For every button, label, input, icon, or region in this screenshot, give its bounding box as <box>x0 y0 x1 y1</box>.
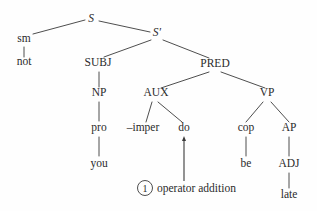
tree-node-be: be <box>241 157 252 169</box>
tree-node-cop: cop <box>238 121 255 134</box>
tree-edge-sbar-pred <box>163 40 209 58</box>
tree-node-ap: AP <box>282 121 297 133</box>
tree-node-do: do <box>178 121 190 133</box>
annotation-arrow-head <box>182 136 186 141</box>
tree-edge-s-sm <box>33 20 85 34</box>
tree-node-you: you <box>90 157 108 170</box>
operator-addition-annotation: 1operator addition <box>138 136 237 196</box>
tree-edge-pred-vp <box>221 72 265 88</box>
tree-node-aux: AUX <box>144 86 170 98</box>
tree-node-pred: PRED <box>200 57 229 69</box>
syntax-tree-diagram: SsmnotS′SUBJPREDNPAUXVPpro–imperdocopAPy… <box>0 0 317 211</box>
tree-node-np: NP <box>92 86 107 98</box>
tree-node-sm: sm <box>17 32 30 44</box>
annotation-number: 1 <box>143 183 148 194</box>
tree-nodes: SsmnotS′SUBJPREDNPAUXVPpro–imperdocopAPy… <box>17 12 300 200</box>
tree-node-not: not <box>17 55 33 67</box>
tree-node-s: S <box>88 12 94 24</box>
tree-edge-aux-imper <box>146 102 152 122</box>
tree-node-subj: SUBJ <box>85 56 112 68</box>
tree-node-sbar: S′ <box>153 26 162 38</box>
annotation-label: operator addition <box>157 182 236 195</box>
tree-canvas: SsmnotS′SUBJPREDNPAUXVPpro–imperdocopAPy… <box>0 0 317 211</box>
tree-edge-vp-ap <box>271 102 289 122</box>
tree-node-late: late <box>281 188 298 200</box>
tree-node-pro: pro <box>91 121 107 134</box>
tree-edge-sbar-subj <box>104 40 151 57</box>
tree-node-adj: ADJ <box>278 157 300 169</box>
tree-node-vp: VP <box>260 86 275 98</box>
tree-node-imper: –imper <box>126 121 160 134</box>
tree-edge-vp-cop <box>246 102 263 122</box>
tree-edge-aux-do <box>158 102 182 122</box>
tree-edge-s-sbar <box>99 21 150 32</box>
